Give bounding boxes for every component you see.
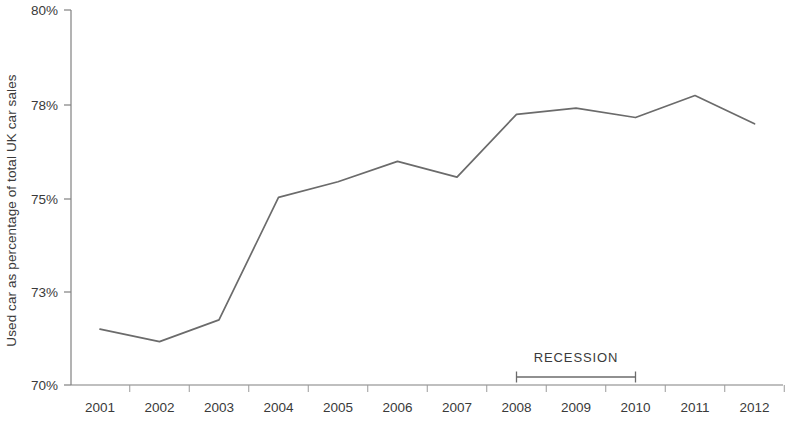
x-axis-tick-label: 2012 — [725, 400, 785, 415]
recession-bracket — [517, 372, 636, 383]
x-axis-tick-label: 2001 — [70, 400, 130, 415]
y-axis-tick-label: 70% — [6, 378, 58, 393]
axis-lines — [71, 10, 783, 385]
data-series-group — [100, 96, 755, 342]
y-axis-tick-label: 75% — [6, 192, 58, 207]
x-axis-tick-label: 2008 — [487, 400, 547, 415]
x-axis-tick-label: 2005 — [308, 400, 368, 415]
x-axis-tick-label: 2003 — [189, 400, 249, 415]
x-axis-tick-label: 2010 — [606, 400, 666, 415]
line-chart: Used car as percentage of total UK car s… — [0, 0, 787, 421]
plot-area — [0, 0, 787, 421]
data-line-series-0 — [100, 96, 755, 342]
x-axis-tick-label: 2009 — [546, 400, 606, 415]
recession-annotation-label: RECESSION — [534, 350, 619, 365]
x-axis-tick-label: 2004 — [249, 400, 309, 415]
x-axis-tick-label: 2002 — [130, 400, 190, 415]
y-axis-tick-label: 80% — [6, 3, 58, 18]
y-axis-tick-label: 78% — [6, 98, 58, 113]
x-axis-tick-label: 2011 — [665, 400, 725, 415]
x-axis-ticks — [130, 385, 785, 392]
y-axis-ticks — [64, 10, 71, 385]
x-axis-tick-label: 2006 — [368, 400, 428, 415]
y-axis-tick-label: 73% — [6, 285, 58, 300]
x-axis-tick-label: 2007 — [427, 400, 487, 415]
